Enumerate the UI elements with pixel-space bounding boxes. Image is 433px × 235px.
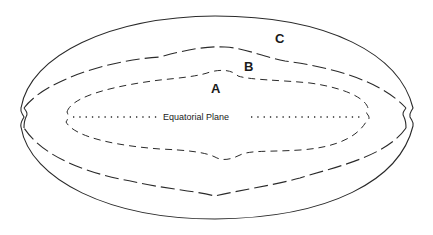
label-a: A [211, 81, 221, 96]
equatorial-plane-label: Equatorial Plane [163, 112, 229, 122]
figure: Equatorial Plane C B A [0, 0, 433, 235]
diagram-svg: Equatorial Plane C B A [0, 0, 433, 235]
curve-b-left-notch [24, 108, 27, 128]
curve-b-right-notch [403, 108, 406, 128]
label-b: B [244, 59, 253, 74]
label-c: C [275, 31, 285, 46]
